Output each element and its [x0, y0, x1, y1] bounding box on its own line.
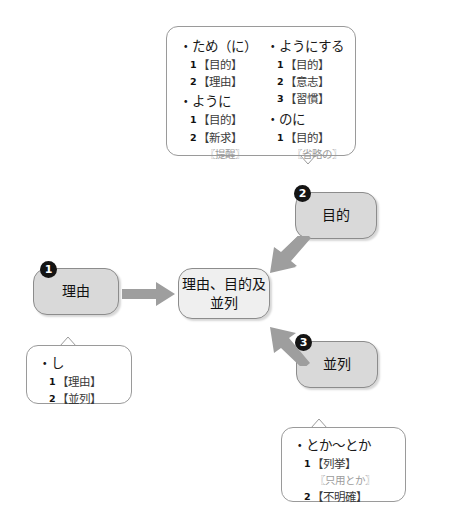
sense-number: 1 [190, 59, 197, 70]
arrow-purpose-to-center [255, 236, 313, 286]
grammar-sense: 1【目的】 [266, 57, 345, 74]
node-purpose-label: 目的 [322, 206, 350, 225]
sense-label: 【理由】 [198, 75, 242, 89]
grammar-entry-head: ・のに [266, 109, 345, 130]
sense-label: 【習慣】 [285, 92, 329, 106]
node-parallel-label: 並列 [323, 355, 351, 374]
grammar-entry-head: ・ようにする [266, 36, 345, 57]
grammar-entry-head: ・ように [179, 91, 258, 112]
grammar-note: 〖只用とか〗 [293, 473, 397, 489]
grammar-sense: 1【目的】 [179, 57, 258, 74]
sense-label: 【目的】 [285, 131, 329, 145]
sense-label: 【理由】 [57, 375, 101, 389]
sense-number: 2 [304, 491, 311, 502]
grammar-sense: 2【意志】 [266, 74, 345, 91]
purpose-callout-left-column: ・ため（に） 1【目的】 2【理由】 ・ように 1【目的】 2【新求】 〖提醒〗 [179, 36, 258, 163]
grammar-sense: 3【習慣】 [266, 91, 345, 108]
grammar-entry-head: ・し [38, 353, 123, 374]
sense-label: 【並列】 [57, 392, 101, 406]
callout-tail-notch [59, 336, 77, 346]
sense-number: 1 [304, 458, 311, 469]
sense-label: 【意志】 [285, 75, 329, 89]
sense-number: 3 [277, 93, 284, 104]
sense-number: 1 [49, 376, 56, 387]
parallel-callout-box: ・とか〜とか 1【列挙】 〖只用とか〗 2【不明確】 [281, 427, 406, 502]
grammar-sense: 1【列挙】 [293, 456, 397, 473]
sense-number: 2 [277, 76, 284, 87]
grammar-entry-head: ・ため（に） [179, 36, 258, 57]
grammar-sense: 1【理由】 [38, 374, 123, 391]
node-center-line1: 理由、目的及 [182, 275, 266, 294]
reason-callout-box: ・し 1【理由】 2【並列】 [26, 345, 132, 404]
grammar-entry-head: ・とか〜とか [293, 435, 397, 456]
grammar-sense: 1【目的】 [179, 112, 258, 129]
grammar-sense: 2【並列】 [38, 391, 123, 408]
sense-number: 1 [190, 114, 197, 125]
node-reason-label: 理由 [62, 282, 90, 301]
arrow-reason-to-center [122, 282, 176, 306]
grammar-note: 〖提醒〗 [179, 147, 258, 163]
sense-number: 2 [49, 393, 56, 404]
grammar-sense: 2【新求】 [179, 130, 258, 147]
sense-number: 1 [277, 59, 284, 70]
grammar-sense: 2【理由】 [179, 74, 258, 91]
sense-label: 【不明確】 [312, 490, 367, 504]
sense-label: 【新求】 [198, 131, 242, 145]
sense-number: 2 [190, 76, 197, 87]
callout-tail-notch [310, 418, 328, 428]
node-purpose-badge: 2 [294, 185, 311, 202]
sense-number: 1 [277, 132, 284, 143]
sense-label: 【目的】 [198, 113, 242, 127]
arrow-parallel-to-center [255, 318, 313, 366]
sense-label: 【列挙】 [312, 457, 356, 471]
sense-number: 2 [190, 132, 197, 143]
grammar-sense: 2【不明確】 [293, 489, 397, 506]
node-reason-badge: 1 [40, 261, 57, 278]
callout-tail-notch [299, 155, 317, 165]
grammar-sense: 1【目的】 [266, 130, 345, 147]
diagram-canvas: ・ため（に） 1【目的】 2【理由】 ・ように 1【目的】 2【新求】 〖提醒〗… [0, 0, 459, 530]
purpose-callout-right-column: ・ようにする 1【目的】 2【意志】 3【習慣】 ・のに 1【目的】 〖省略の〗 [266, 36, 345, 163]
sense-label: 【目的】 [285, 58, 329, 72]
purpose-callout-box: ・ため（に） 1【目的】 2【理由】 ・ように 1【目的】 2【新求】 〖提醒〗… [166, 26, 356, 156]
node-center-line2: 並列 [210, 294, 238, 313]
sense-label: 【目的】 [198, 58, 242, 72]
